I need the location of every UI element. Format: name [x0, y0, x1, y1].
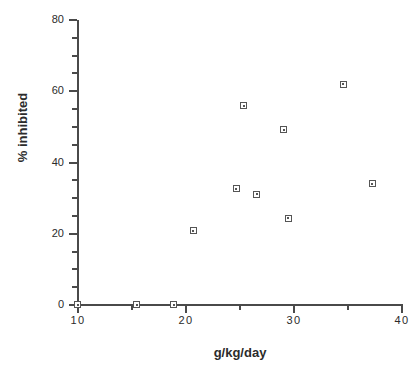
data-point	[170, 301, 177, 308]
x-axis-title: g/kg/day	[77, 345, 403, 360]
data-point	[240, 102, 247, 109]
data-point	[253, 191, 260, 198]
data-point	[285, 215, 292, 222]
data-point	[280, 126, 287, 133]
data-point	[369, 180, 376, 187]
plot-data-area	[0, 0, 418, 385]
data-point	[190, 227, 197, 234]
data-point	[133, 301, 140, 308]
scatter-plot-figure: 02040608010203040 % inhibited g/kg/day	[0, 0, 418, 385]
data-point	[233, 185, 240, 192]
data-point	[340, 81, 347, 88]
data-point	[74, 301, 81, 308]
y-axis-title: % inhibited	[15, 73, 30, 183]
